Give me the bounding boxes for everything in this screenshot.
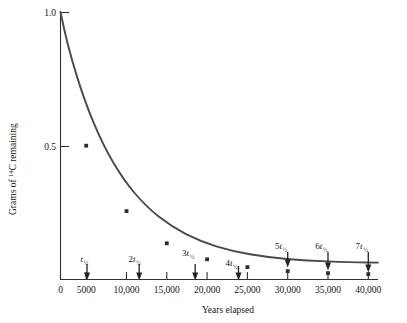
data-point-marker — [366, 272, 370, 276]
x-tick-label-30000: 30,000 — [275, 285, 301, 295]
data-point-marker — [246, 265, 250, 269]
half-life-arrow-1 — [84, 264, 90, 281]
data-point-marker — [84, 144, 88, 148]
x-tick-label-15000: 15,000 — [154, 285, 180, 295]
x-tick-label-35000: 35,000 — [315, 285, 341, 295]
x-tick-label-10000: 10,000 — [113, 285, 139, 295]
half-life-subscript: ½ — [190, 254, 195, 260]
half-life-arrow-5 — [285, 252, 291, 268]
half-life-label-3: 3t½ — [182, 248, 195, 260]
y-axis-title-suffix: C remaining — [8, 123, 18, 170]
half-life-label-5: 5t½ — [275, 241, 288, 253]
half-life-subscript: ½ — [233, 264, 238, 270]
half-life-subscript: ½ — [323, 247, 328, 253]
data-point-marker — [165, 241, 169, 245]
decay-chart-figure: 1.0 0.5 Grams of 14C remaining 0 5000 10… — [0, 0, 407, 323]
carbon-14-decay-plot: 1.0 0.5 Grams of 14C remaining 0 5000 10… — [0, 0, 407, 323]
data-point-marker — [125, 209, 129, 213]
half-life-subscript: ½ — [363, 247, 368, 253]
x-axis-title: Years elapsed — [202, 305, 254, 315]
half-life-subscript: ½ — [136, 260, 141, 266]
half-life-subscript: ½ — [283, 247, 288, 253]
data-point-marker — [205, 257, 209, 261]
half-life-label-7: 7t½ — [356, 241, 369, 253]
half-life-label-1: t½ — [81, 254, 89, 266]
data-point-marker — [326, 271, 330, 275]
decay-curve — [61, 12, 379, 263]
y-axis-title: Grams of 14C remaining — [7, 123, 19, 215]
half-life-arrow-2 — [136, 264, 142, 281]
x-tick-label-40000: 40,000 — [355, 285, 381, 295]
half-life-label-4: 4t½ — [226, 258, 239, 270]
x-tick-label-25000: 25,000 — [234, 285, 260, 295]
half-life-label-2: 2t½ — [129, 254, 142, 266]
x-tick-label-5000: 5000 — [77, 285, 96, 295]
y-tick-label-1.0: 1.0 — [44, 8, 56, 18]
half-life-subscript: ½ — [84, 260, 89, 266]
x-tick-label-20000: 20,000 — [194, 285, 220, 295]
half-life-arrow-3 — [192, 264, 198, 281]
y-axis-title-prefix: Grams of — [8, 177, 18, 215]
svg-text:Grams of 14C remaining: Grams of 14C remaining — [7, 123, 19, 215]
half-life-label-6: 6t½ — [315, 241, 328, 253]
y-tick-label-0.5: 0.5 — [44, 142, 56, 152]
x-tick-label-0: 0 — [58, 285, 63, 295]
data-point-marker — [286, 269, 290, 273]
